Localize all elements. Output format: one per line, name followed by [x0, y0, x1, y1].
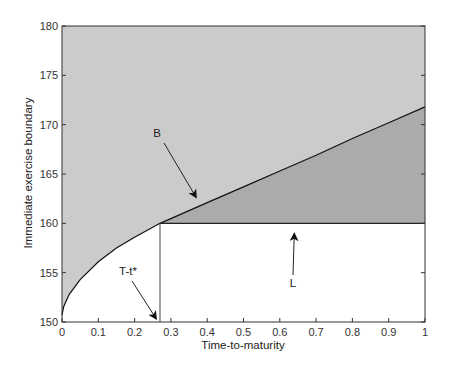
- x-tick-label: 0.7: [308, 326, 323, 338]
- exercise-boundary-chart: 00.10.20.30.40.50.60.70.80.91 1501551601…: [0, 0, 449, 372]
- x-tick-label: 0.8: [345, 326, 360, 338]
- y-tick-label: 170: [40, 119, 58, 131]
- y-axis-label: Immediate exercise boundary: [22, 97, 34, 248]
- annotation-b-label: B: [153, 127, 161, 139]
- x-axis-label: Time-to-maturity: [201, 339, 285, 351]
- x-tick-label: 0.5: [236, 326, 251, 338]
- y-tick-label: 160: [40, 217, 58, 229]
- plot-regions: [62, 26, 425, 322]
- y-tick-labels: 150155160165170175180: [40, 20, 58, 328]
- y-tick-label: 150: [40, 316, 58, 328]
- annotation-l-arrow-icon: [293, 233, 294, 275]
- x-tick-label: 0.4: [200, 326, 215, 338]
- x-tick-label: 0.3: [163, 326, 178, 338]
- y-tick-label: 180: [40, 20, 58, 32]
- y-tick-label: 155: [40, 267, 58, 279]
- x-tick-labels: 00.10.20.30.40.50.60.70.80.91: [59, 326, 428, 338]
- annotation-t-t-arrow-icon: [132, 281, 156, 319]
- y-tick-label: 165: [40, 168, 58, 180]
- x-tick-label: 0.9: [381, 326, 396, 338]
- annotation-t-t-label: T-t*: [119, 265, 137, 277]
- x-tick-label: 0: [59, 326, 65, 338]
- x-tick-label: 1: [422, 326, 428, 338]
- y-tick-label: 175: [40, 69, 58, 81]
- annotation-l-label: L: [290, 277, 297, 289]
- x-tick-label: 0.6: [272, 326, 287, 338]
- x-tick-label: 0.2: [127, 326, 142, 338]
- x-tick-label: 0.1: [91, 326, 106, 338]
